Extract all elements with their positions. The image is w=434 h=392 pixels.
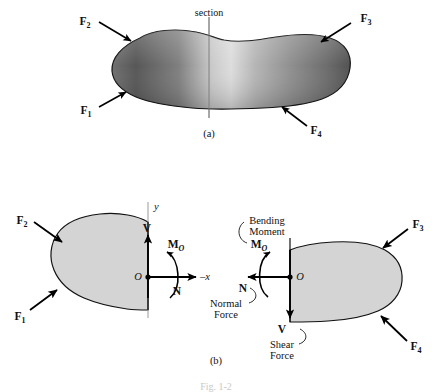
bending-moment-label-line2: Moment <box>249 226 285 237</box>
body-shade-overlay-a <box>112 30 350 109</box>
normal-label-n-left: N <box>173 285 182 297</box>
mechanics-figure-svg: section F2 F1 F3 F4 (a) y <box>0 0 434 392</box>
force-arrow-f2-a <box>99 22 131 41</box>
section-label: section <box>195 7 223 18</box>
force-arrow-f4-a <box>282 107 307 126</box>
x-axis-label-left: –x <box>199 271 210 282</box>
force-label-f2-b: F2 <box>16 214 27 229</box>
part-b-right-fbd-group: O V N MO Bending Moment Normal Force She… <box>210 215 424 361</box>
force-label-f4-a: F4 <box>310 124 321 139</box>
body-shape-b-left <box>51 213 148 310</box>
body-shape-b-right <box>290 242 402 322</box>
normal-label-n-right: N <box>239 282 248 294</box>
moment-label-left: MO <box>168 238 185 253</box>
force-arrow-f1-a <box>99 92 126 107</box>
force-arrow-f3-a <box>321 23 351 42</box>
shear-force-label-line1: Shear <box>270 339 294 350</box>
normal-force-label-line1: Normal <box>210 298 242 309</box>
bending-moment-leader <box>239 222 247 243</box>
force-arrow-f3-b <box>383 229 408 248</box>
force-label-f2-a: F2 <box>79 15 90 30</box>
bending-moment-label-line1: Bending <box>249 215 285 226</box>
force-arrow-f1-b <box>30 290 57 310</box>
force-label-f1-a: F1 <box>80 104 91 119</box>
normal-force-leader <box>249 288 256 303</box>
caption-a: (a) <box>203 128 215 140</box>
caption-b: (b) <box>210 355 223 367</box>
force-label-f4-b: F4 <box>410 340 421 355</box>
moment-arc-right <box>260 252 270 297</box>
force-arrow-f4-b <box>381 316 407 341</box>
figure-root: section F2 F1 F3 F4 (a) y <box>0 0 434 392</box>
origin-label-left: O <box>134 271 142 282</box>
origin-label-right: O <box>296 271 304 282</box>
force-label-f3-a: F3 <box>360 12 371 27</box>
figure-caption: Fig. 1-2 <box>200 381 232 392</box>
part-a-group: section F2 F1 F3 F4 (a) <box>79 7 371 140</box>
force-label-f1-b: F1 <box>14 310 25 325</box>
shear-force-leader <box>299 329 306 344</box>
origin-dot-left <box>145 274 150 279</box>
moment-label-right: MO <box>251 238 268 253</box>
force-arrow-f2-b <box>34 222 62 242</box>
normal-force-label-line2: Force <box>214 309 238 320</box>
y-axis-label-left: y <box>153 201 159 212</box>
shear-label-v-left: V <box>143 222 152 234</box>
part-b-left-fbd-group: y V –x O MO N F2 F1 <box>14 201 210 325</box>
shear-label-v-right: V <box>278 323 287 335</box>
force-label-f3-b: F3 <box>412 218 423 233</box>
shear-force-label-line2: Force <box>270 350 294 361</box>
